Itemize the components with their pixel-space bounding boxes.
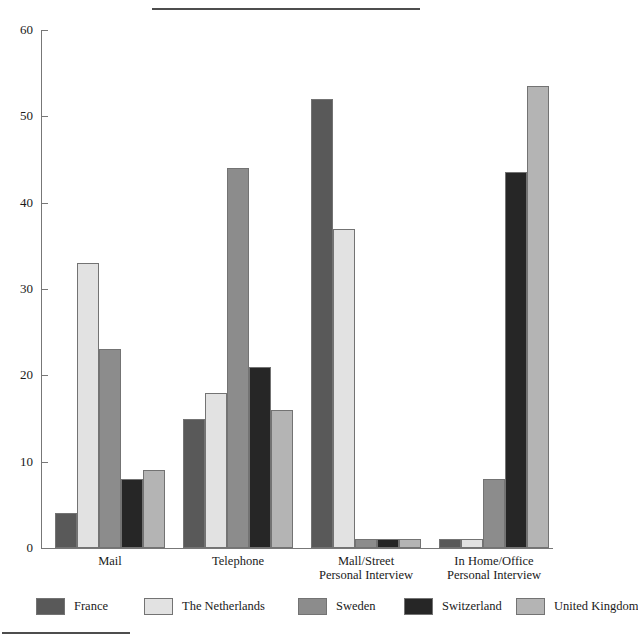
chart-legend: FranceThe NetherlandsSwedenSwitzerlandUn… xyxy=(36,596,556,616)
bar xyxy=(227,168,249,548)
bar xyxy=(483,479,505,548)
legend-label: Switzerland xyxy=(442,599,502,613)
bar xyxy=(377,539,399,548)
bar xyxy=(143,470,165,548)
legend-swatch xyxy=(516,598,545,615)
legend-item[interactable]: Switzerland xyxy=(404,596,502,616)
legend-swatch xyxy=(404,598,433,615)
y-axis-tick-label: 20 xyxy=(0,368,33,381)
bar xyxy=(399,539,421,548)
legend-item[interactable]: The Netherlands xyxy=(144,596,265,616)
bar xyxy=(55,513,77,548)
plot-area xyxy=(41,30,553,548)
bar xyxy=(333,229,355,548)
bottom-divider-rule xyxy=(2,632,130,634)
legend-item[interactable]: France xyxy=(36,596,108,616)
legend-label: United Kingdom xyxy=(554,599,638,613)
top-divider-rule xyxy=(152,8,420,10)
x-axis-category-label: In Home/Office Personal Interview xyxy=(414,554,574,582)
y-axis-tick-label: 0 xyxy=(0,541,33,554)
bar xyxy=(461,539,483,548)
legend-label: Sweden xyxy=(336,599,376,613)
bar xyxy=(439,539,461,548)
bar xyxy=(355,539,377,548)
legend-swatch xyxy=(36,598,65,615)
bar xyxy=(183,419,205,549)
y-axis-tick xyxy=(41,548,48,549)
legend-label: The Netherlands xyxy=(182,599,265,613)
bar xyxy=(249,367,271,548)
y-axis-tick-label: 60 xyxy=(0,23,33,36)
legend-item[interactable]: Sweden xyxy=(298,596,376,616)
y-axis-tick-label: 40 xyxy=(0,196,33,209)
bar xyxy=(77,263,99,548)
legend-label: France xyxy=(74,599,108,613)
bar xyxy=(99,349,121,548)
y-axis-tick-label: 30 xyxy=(0,282,33,295)
legend-item[interactable]: United Kingdom xyxy=(516,596,638,616)
bar xyxy=(271,410,293,548)
bar xyxy=(527,86,549,548)
bar xyxy=(121,479,143,548)
bar xyxy=(311,99,333,548)
legend-swatch xyxy=(298,598,327,615)
x-axis-line xyxy=(41,548,553,549)
y-axis-tick-label: 10 xyxy=(0,455,33,468)
bar xyxy=(205,393,227,548)
legend-swatch xyxy=(144,598,173,615)
y-axis-tick-label: 50 xyxy=(0,109,33,122)
bar xyxy=(505,172,527,548)
